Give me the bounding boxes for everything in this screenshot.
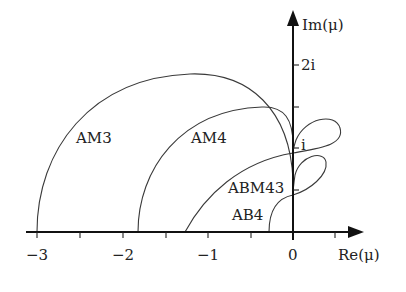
x-tick-label: −2 [112, 246, 134, 264]
y-axis-label: Im(μ) [302, 16, 344, 34]
x-tick-label: −3 [26, 246, 48, 264]
stability-regions-figure: Re(μ) Im(μ) −3 −2 −1 0 i 2i AM3 AM4 ABM4… [0, 0, 406, 292]
am4-curve [138, 107, 293, 232]
y-tick-label: 2i [301, 56, 316, 74]
x-tick-label: 0 [288, 246, 298, 264]
x-tick-label: −1 [197, 246, 219, 264]
curve-label-abm43: ABM43 [227, 179, 284, 197]
y-tick-label: i [301, 136, 306, 154]
x-axis-label: Re(μ) [338, 246, 380, 264]
curve-label-ab4: AB4 [231, 206, 263, 224]
curve-label-am3: AM3 [75, 129, 112, 147]
y-axis-arrow-icon [287, 10, 299, 26]
x-axis-arrow-icon [348, 226, 364, 238]
curve-label-am4: AM4 [190, 129, 227, 147]
